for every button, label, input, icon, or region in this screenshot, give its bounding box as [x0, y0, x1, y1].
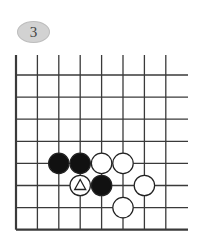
- white-stone: [91, 153, 111, 173]
- white-stone: [113, 197, 133, 217]
- white-stone: [70, 175, 90, 195]
- white-stone: [113, 153, 133, 173]
- black-stone: [70, 153, 90, 173]
- white-stone: [134, 175, 154, 195]
- black-stone: [91, 175, 111, 195]
- black-stone: [49, 153, 69, 173]
- board-grid: [16, 55, 188, 230]
- go-board[interactable]: [0, 0, 200, 245]
